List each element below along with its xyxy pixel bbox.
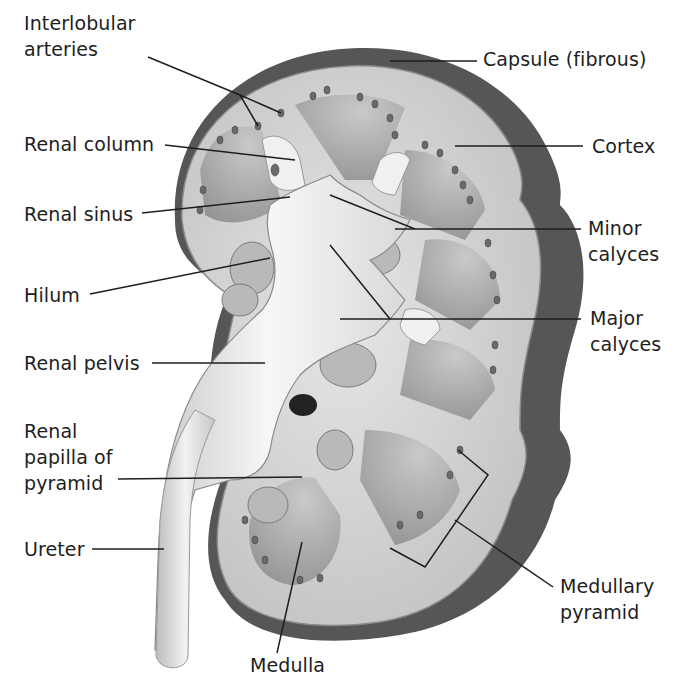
- label-hilum: Hilum: [24, 282, 80, 308]
- label-minor-calyces: Minor calyces: [588, 215, 659, 267]
- label-major-calyces: Major calyces: [590, 305, 661, 357]
- label-renal-pelvis: Renal pelvis: [24, 350, 140, 376]
- label-cortex: Cortex: [592, 133, 655, 159]
- kidney-diagram: Interlobular arteries Renal column Renal…: [0, 0, 687, 691]
- label-medullary-pyramid: Medullary pyramid: [560, 573, 654, 625]
- label-capsule: Capsule (fibrous): [483, 46, 646, 72]
- label-renal-papilla: Renal papilla of pyramid: [24, 418, 113, 496]
- label-medulla: Medulla: [250, 652, 325, 678]
- label-renal-sinus: Renal sinus: [24, 201, 133, 227]
- label-interlobular-arteries: Interlobular arteries: [24, 10, 136, 62]
- label-ureter: Ureter: [24, 536, 85, 562]
- label-renal-column: Renal column: [24, 131, 154, 157]
- vessel-opening: [289, 394, 317, 416]
